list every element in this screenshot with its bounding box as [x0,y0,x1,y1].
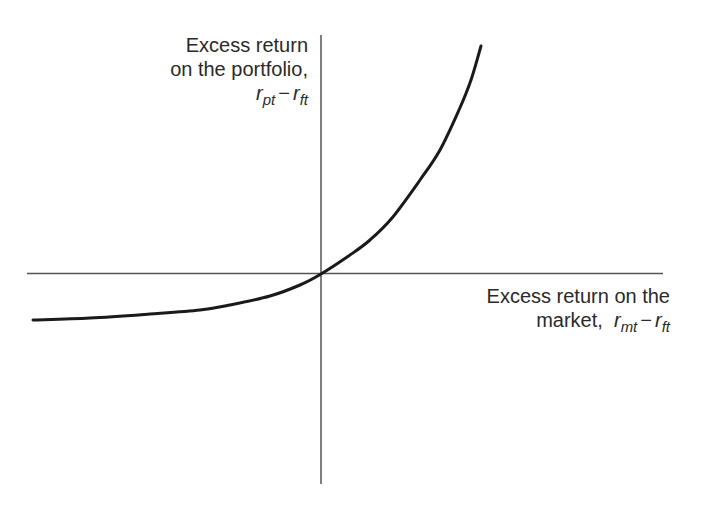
x-axis-label-line1: Excess return on the [487,284,670,308]
y-axis-label-line1: Excess return [170,33,308,57]
y-axis-label: Excess return on the portfolio, rpt−rft [170,33,308,112]
x-axis-label-line2: market, [536,309,603,331]
x-axis-symbol: rmt−rft [614,309,670,331]
x-axis-label: Excess return on the market, rmt−rft [487,284,670,339]
diagram-canvas [0,0,706,507]
x-axis-label-line2-wrap: market, rmt−rft [487,308,670,339]
y-axis-label-line2: on the portfolio, [170,57,308,81]
y-axis-symbol: rpt−rft [170,81,308,112]
